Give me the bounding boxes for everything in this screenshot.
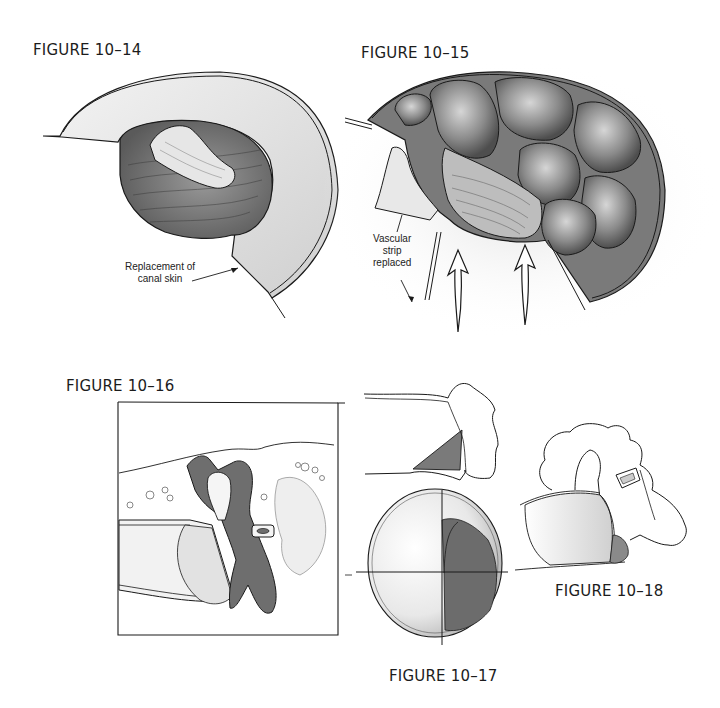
figure-10-18-illustration — [0, 0, 720, 708]
figure-10-18-label: FIGURE 10–18 — [555, 582, 663, 600]
